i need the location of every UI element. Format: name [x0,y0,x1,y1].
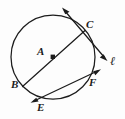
center-dot-icon [51,55,55,59]
label-point-a: A [37,46,44,57]
label-line-l: ℓ [110,55,115,67]
arrowhead-down-right-icon [100,54,108,61]
label-point-c: C [86,19,93,30]
arrowhead-up-left-icon [62,8,70,15]
label-point-b: B [11,79,18,90]
geometry-canvas [0,0,125,119]
label-point-e: E [37,102,44,113]
arrowhead-up-right-icon [93,69,101,75]
tangent-line-l [65,11,105,58]
geometry-figure: A B C E F ℓ [0,0,125,119]
label-point-f: F [89,77,96,88]
